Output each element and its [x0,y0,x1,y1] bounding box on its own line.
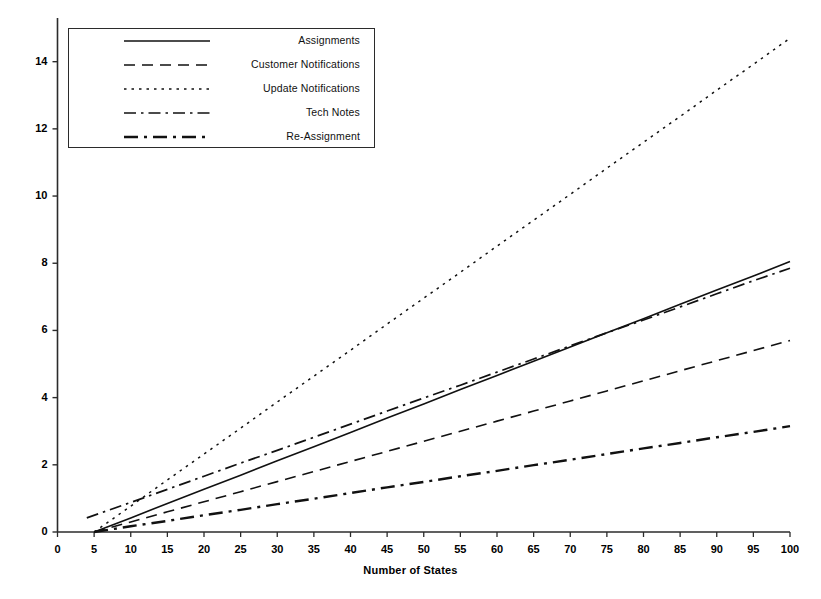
x-tick-label: 55 [440,544,480,555]
x-tick-label: 85 [660,544,700,555]
x-tick-label: 65 [514,544,554,555]
y-tick-label: 2 [12,459,48,470]
x-tick-label: 30 [257,544,297,555]
x-tick-label: 25 [221,544,261,555]
chart-legend: AssignmentsCustomer NotificationsUpdate … [68,28,375,148]
x-tick-label: 80 [624,544,664,555]
x-axis-title: Number of States [0,564,821,576]
series-line-assignments [94,262,790,532]
x-tick-label: 70 [550,544,590,555]
legend-label-customer-notifications: Customer Notifications [251,58,360,70]
y-tick-label: 14 [12,56,48,67]
x-tick-label: 100 [770,544,810,555]
x-tick-label: 95 [733,544,773,555]
x-tick-label: 35 [294,544,334,555]
y-tick-label: 4 [12,392,48,403]
legend-label-update-notifications: Update Notifications [263,82,360,94]
x-tick-label: 10 [111,544,151,555]
series-line-customer-notifications [94,341,790,532]
x-tick-label: 15 [147,544,187,555]
x-tick-label: 50 [404,544,444,555]
x-tick-label: 60 [477,544,517,555]
legend-label-re-assignment: Re-Assignment [286,130,360,142]
chart-container: 14121086420 0510152025303540455055606570… [0,0,821,599]
series-line-re-assignment [94,426,790,532]
y-tick-label: 0 [12,526,48,537]
legend-label-assignments: Assignments [298,34,360,46]
x-tick-label: 90 [697,544,737,555]
x-tick-label: 20 [184,544,224,555]
x-tick-label: 75 [587,544,627,555]
x-tick-label: 40 [331,544,371,555]
y-tick-label: 10 [12,190,48,201]
x-tick-label: 45 [367,544,407,555]
legend-label-tech-notes: Tech Notes [306,106,360,118]
x-tick-label: 0 [38,544,78,555]
y-tick-label: 12 [12,123,48,134]
x-tick-label: 5 [74,544,114,555]
y-tick-label: 6 [12,324,48,335]
y-tick-label: 8 [12,257,48,268]
